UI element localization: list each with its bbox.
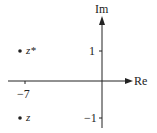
tick-label-minus7: −7	[17, 88, 30, 100]
point-z-conjugate	[18, 49, 22, 53]
re-axis-label: Re	[134, 75, 147, 87]
point-z	[18, 116, 22, 120]
complex-plane-diagram: Im Re 1 −1 −7 z* z	[0, 0, 157, 133]
axes-graphic	[0, 0, 157, 133]
im-axis-label: Im	[95, 3, 108, 15]
tick-label-minus1: −1	[84, 112, 97, 124]
point-label-z-conjugate: z*	[26, 45, 36, 56]
point-label-z: z	[26, 112, 30, 123]
tick-label-1: 1	[89, 45, 95, 57]
real-axis-arrow-icon	[125, 78, 133, 84]
imaginary-axis-arrow-icon	[99, 16, 105, 25]
